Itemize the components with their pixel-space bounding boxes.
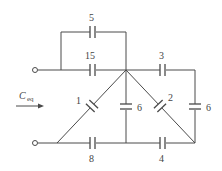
- capacitor-8-label: 8: [89, 153, 94, 164]
- capacitor-1-label: 1: [76, 95, 81, 106]
- capacitor-6-right: 6: [189, 102, 211, 113]
- capacitor-5-label: 5: [89, 12, 94, 23]
- capacitor-3: 3: [159, 50, 166, 76]
- capacitor-4: 4: [159, 137, 166, 164]
- capacitor-6-center-label: 6: [137, 102, 142, 113]
- ceq-label-sub: eq: [27, 95, 34, 103]
- arrowhead-icon: [38, 104, 44, 109]
- capacitor-4-label: 4: [159, 153, 164, 164]
- capacitor-3-label: 3: [159, 50, 164, 61]
- capacitor-6-right-label: 6: [206, 102, 211, 113]
- capacitor-5: 5: [89, 12, 96, 38]
- terminal-top-left-icon: [33, 68, 38, 73]
- capacitor-2-label: 2: [168, 92, 173, 103]
- terminal-bottom-left-icon: [33, 141, 38, 146]
- capacitor-15: 15: [85, 50, 96, 76]
- wires: [38, 32, 195, 143]
- capacitor-6-center: 6: [120, 102, 142, 113]
- capacitor-8: 8: [89, 137, 96, 164]
- ceq-label-main: C: [19, 90, 26, 101]
- capacitor-circuit-diagram: 5 15 3 1 6 2 6: [0, 0, 222, 171]
- capacitor-15-label: 15: [85, 50, 95, 61]
- equivalent-capacitance-indicator: C eq: [16, 90, 44, 109]
